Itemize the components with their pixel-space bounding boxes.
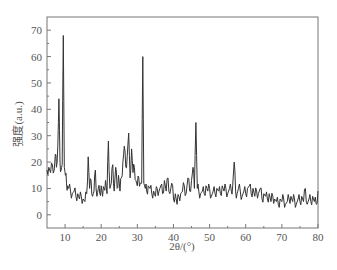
x-tick-label: 30 [132,231,144,243]
y-tick-label: 10 [31,182,43,194]
x-tick-label: 60 [240,231,252,243]
xrd-line [47,36,318,208]
x-tick-label: 20 [96,231,108,243]
y-tick-label: 0 [37,209,43,221]
x-tick-label: 70 [276,231,288,243]
x-tick-label: 10 [60,231,72,243]
y-axis-title: 强度(a.u.) [11,101,25,147]
y-tick-label: 70 [31,24,43,36]
x-tick-label: 50 [204,231,216,243]
y-tick-label: 30 [31,130,43,142]
xrd-chart: 010203040506070 1020304050607080 2θ/(°) … [0,0,337,270]
x-axis-title: 2θ/(°) [169,240,195,253]
plot-frame [47,17,318,228]
y-tick-label: 50 [31,77,43,89]
y-tick-label: 40 [31,103,43,115]
y-tick-label: 60 [31,51,43,63]
x-tick-label: 80 [313,231,325,243]
y-axis-ticks: 010203040506070 [31,24,51,221]
y-tick-label: 20 [31,156,43,168]
